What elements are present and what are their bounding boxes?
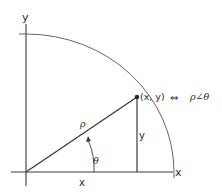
equivalence-symbol: ⇔	[170, 92, 178, 103]
angle-arrowhead-icon	[86, 136, 91, 142]
point-label: (x, y)	[140, 91, 165, 102]
y-component-label: y	[139, 130, 145, 141]
y-axis-label: y	[22, 11, 29, 24]
rho-vector	[26, 97, 137, 172]
point-marker	[135, 95, 140, 100]
x-component-label: x	[79, 177, 85, 188]
polar-form-label: ρ∠θ	[189, 91, 210, 102]
polar-diagram: y x (x, y) ⇔ ρ∠θ ρ θ y x	[0, 0, 222, 192]
theta-label: θ	[93, 155, 99, 166]
rho-label: ρ	[79, 118, 86, 129]
x-axis-label: x	[175, 166, 182, 179]
